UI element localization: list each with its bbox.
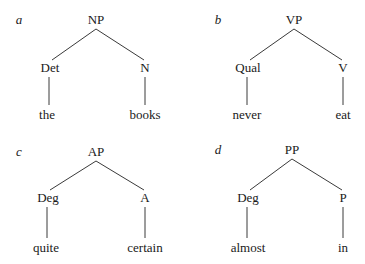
edge-root-right [96,161,144,190]
edge-root-left [50,161,96,190]
right-word-leaf: in [338,240,349,255]
left-word-leaf: almost [231,240,266,255]
root-node: NP [88,12,105,27]
edge-root-right [292,159,342,190]
left-category-node: Deg [37,190,59,205]
right-word-leaf: certain [127,240,163,255]
left-category-node: Qual [235,60,261,75]
root-node: AP [88,144,105,159]
right-category-node: P [339,190,346,205]
left-category-node: Deg [237,190,259,205]
left-word-leaf: quite [33,240,59,255]
right-word-leaf: books [129,107,160,122]
edge-root-left [52,29,96,60]
right-category-node: N [140,60,150,75]
tree-a: aNPDetNthebooks [16,12,161,122]
left-word-leaf: the [39,107,55,122]
tree-label: c [16,144,22,159]
tree-label: d [215,142,222,157]
edge-root-right [294,29,342,60]
tree-b: bVPQualVnevereat [215,12,351,122]
syntax-tree-diagram: aNPDetNthebooksbVPQualVnevereatcAPDegAqu… [0,0,365,264]
root-node: PP [285,142,299,157]
edge-root-left [250,159,292,190]
right-category-node: V [338,60,348,75]
tree-label: b [215,12,222,27]
edge-root-left [250,29,294,60]
tree-label: a [16,12,23,27]
root-node: VP [286,12,303,27]
left-category-node: Det [41,60,60,75]
left-word-leaf: never [233,107,263,122]
right-category-node: A [140,190,150,205]
tree-d: dPPDegPalmostin [215,142,349,255]
right-word-leaf: eat [335,107,351,122]
tree-c: cAPDegAquitecertain [16,144,163,255]
edge-root-right [96,29,144,60]
